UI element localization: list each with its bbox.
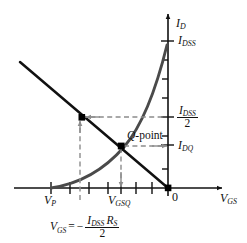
idq-label: IDQ: [178, 139, 193, 151]
equation-equals: =: [68, 221, 75, 233]
equation-minus: −: [77, 221, 84, 233]
vgsq-label: VGSQ: [108, 194, 130, 206]
figure-canvas: ID VGS IDSS IDSS 2 IDQ VP VGSQ 0 Q-point…: [0, 0, 247, 243]
marker-origin: [165, 185, 172, 192]
q-point-label: Q-point: [127, 130, 163, 142]
idss-label: IDSS: [178, 34, 196, 46]
load-line: [20, 62, 168, 188]
equation-fraction: IDSS RS 2: [85, 215, 119, 239]
origin-label: 0: [172, 191, 178, 203]
y-axis-label: ID: [176, 17, 186, 29]
marker-idss-half-point: [79, 114, 86, 121]
vgs-equation: VGS = − IDSS RS 2: [50, 215, 119, 239]
equation-lhs: VGS: [50, 221, 66, 233]
x-axis-label: VGS: [220, 192, 237, 204]
marker-q-point: [118, 143, 125, 150]
idss-half-label: IDSS 2: [177, 105, 198, 129]
vp-label: VP: [44, 194, 56, 206]
